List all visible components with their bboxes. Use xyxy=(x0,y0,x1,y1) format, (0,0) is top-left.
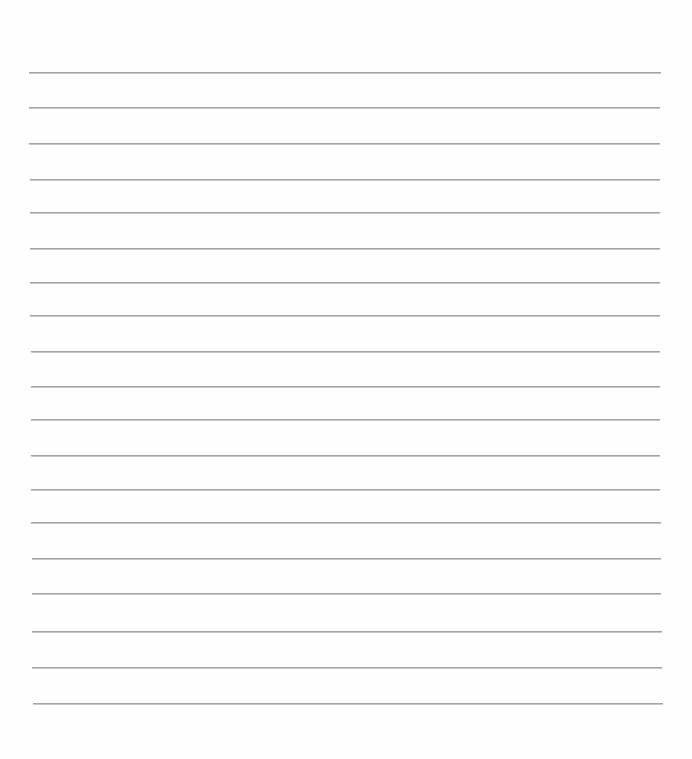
ruled-line xyxy=(33,703,663,705)
ruled-line xyxy=(29,143,660,145)
ruled-line xyxy=(32,593,661,595)
lined-paper-page xyxy=(0,0,692,759)
ruled-line xyxy=(32,558,661,560)
ruled-line xyxy=(31,455,660,457)
ruled-line xyxy=(31,351,660,353)
ruled-line xyxy=(32,667,662,669)
ruled-line xyxy=(30,212,660,214)
ruled-line xyxy=(29,107,660,109)
ruled-line xyxy=(31,489,660,491)
ruled-line xyxy=(30,248,660,250)
ruled-line xyxy=(31,386,660,388)
ruled-line xyxy=(31,522,661,524)
ruled-line xyxy=(32,631,662,633)
ruled-line xyxy=(30,315,660,317)
ruled-line xyxy=(31,419,660,421)
ruled-line xyxy=(30,282,660,284)
ruled-line xyxy=(30,179,660,181)
ruled-line xyxy=(29,72,661,74)
